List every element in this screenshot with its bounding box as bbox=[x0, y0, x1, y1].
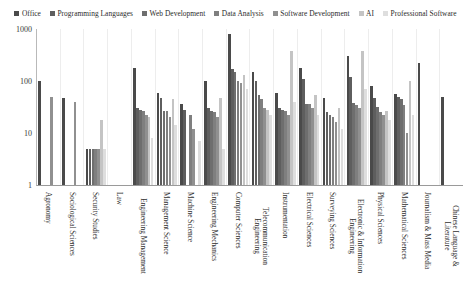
bar-group bbox=[37, 29, 61, 185]
x-axis-tick-label: Engineering Mechanics bbox=[210, 192, 218, 261]
x-axis-tick-label: Engineering Management bbox=[139, 192, 147, 280]
bar-group bbox=[61, 29, 85, 185]
x-axis-tick-label: Telecommunication Engineering bbox=[253, 192, 269, 280]
x-axis-tick: Telecommunication Engineering bbox=[249, 190, 273, 283]
bar bbox=[441, 97, 444, 185]
legend-item-label: Data Analysis bbox=[222, 9, 264, 18]
bar-group bbox=[298, 29, 322, 185]
legend-swatch-icon bbox=[383, 11, 388, 16]
legend-item[interactable]: Data Analysis bbox=[214, 9, 263, 18]
x-axis-tick: Mathematical Sciences bbox=[392, 190, 416, 283]
y-axis-tick-label: 100 bbox=[20, 77, 32, 86]
bar-group bbox=[179, 29, 203, 185]
bar-chart: OfficeProgramming LanguagesWeb Developme… bbox=[0, 0, 471, 283]
y-axis: 1000100101 bbox=[0, 22, 36, 190]
x-axis-tick: Electrical Sciences bbox=[297, 190, 321, 283]
x-axis-tick-label: Sociological Sciences bbox=[68, 192, 76, 256]
plot-wrapper: 1000100101 bbox=[0, 22, 471, 190]
legend-swatch-icon bbox=[273, 11, 278, 16]
bar-group bbox=[369, 29, 393, 185]
bar bbox=[38, 81, 41, 185]
legend-swatch-icon bbox=[214, 11, 219, 16]
x-axis-tick-label: Computer Sciences bbox=[234, 192, 242, 249]
bar-group bbox=[322, 29, 346, 185]
legend-item-label: AI bbox=[366, 9, 374, 18]
bar bbox=[412, 115, 415, 185]
bar-group bbox=[108, 29, 132, 185]
legend-swatch-icon bbox=[50, 11, 55, 16]
bar bbox=[192, 129, 195, 185]
bar bbox=[293, 102, 296, 185]
x-axis-tick-label: Surveying Sciences bbox=[328, 192, 336, 249]
y-axis-tick-label: 10 bbox=[24, 129, 32, 138]
bar bbox=[222, 149, 225, 185]
bar-group bbox=[250, 29, 274, 185]
x-axis-tick: Management Science bbox=[155, 190, 179, 283]
bar-group bbox=[132, 29, 156, 185]
x-axis-tick: Engineering Mechanics bbox=[202, 190, 226, 283]
x-axis-tick-label: Machine Science bbox=[186, 192, 194, 242]
x-axis-tick-label: Chinese Language & Literature bbox=[443, 192, 459, 280]
x-axis-tick: Law bbox=[107, 190, 131, 283]
x-axis-tick: Security Studies bbox=[83, 190, 107, 283]
bar bbox=[341, 129, 344, 185]
bar-group bbox=[393, 29, 417, 185]
x-axis-tick: Machine Science bbox=[178, 190, 202, 283]
bar-group bbox=[274, 29, 298, 185]
bar bbox=[269, 115, 272, 185]
plot-area bbox=[36, 29, 463, 186]
x-axis-tick: Computer Sciences bbox=[226, 190, 250, 283]
x-axis-tick: Instrumentation bbox=[273, 190, 297, 283]
bar bbox=[103, 149, 106, 185]
x-axis: AgronomySociological SciencesSecurity St… bbox=[36, 190, 463, 283]
x-axis-tick: Chinese Language & Literature bbox=[439, 190, 463, 283]
y-axis-tick-label: 1000 bbox=[16, 25, 32, 34]
x-axis-tick-label: Agronomy bbox=[44, 192, 52, 224]
x-axis-tick: Surveying Sciences bbox=[321, 190, 345, 283]
bar-group bbox=[440, 29, 463, 185]
bar-group bbox=[84, 29, 108, 185]
bar-group bbox=[417, 29, 441, 185]
bar bbox=[62, 98, 65, 185]
bar bbox=[74, 102, 77, 185]
legend-item[interactable]: Programming Languages bbox=[50, 9, 133, 18]
legend-item-label: Programming Languages bbox=[57, 9, 133, 18]
bar bbox=[198, 141, 201, 185]
bar-groups bbox=[37, 29, 463, 185]
legend-swatch-icon bbox=[359, 11, 364, 16]
x-axis-tick-label: Journalism & Mass Media bbox=[423, 192, 431, 269]
x-axis-tick-label: Electronic & Information Engineering bbox=[348, 192, 364, 280]
legend-swatch-icon bbox=[14, 11, 19, 16]
legend-item[interactable]: Office bbox=[14, 9, 41, 18]
bar bbox=[151, 138, 154, 185]
legend-swatch-icon bbox=[142, 11, 147, 16]
y-axis-tick-label: 1 bbox=[28, 181, 32, 190]
x-axis-tick: Agronomy bbox=[36, 190, 60, 283]
bar-group bbox=[156, 29, 180, 185]
bar bbox=[317, 115, 320, 185]
legend-item[interactable]: Professional Software bbox=[383, 9, 457, 18]
bar bbox=[388, 120, 391, 185]
bar bbox=[246, 89, 249, 185]
x-axis-tick: Electronic & Information Engineering bbox=[344, 190, 368, 283]
x-axis-tick-label: Security Studies bbox=[91, 192, 99, 240]
x-axis-tick-label: Electrical Sciences bbox=[305, 192, 313, 247]
x-axis-tick-label: Law bbox=[115, 192, 123, 205]
legend-item[interactable]: Software Development bbox=[273, 9, 350, 18]
legend-item-label: Office bbox=[22, 9, 41, 18]
x-axis-tick-label: Instrumentation bbox=[281, 192, 289, 238]
x-axis-tick-label: Management Science bbox=[162, 192, 170, 255]
x-axis-tick-label: Mathematical Sciences bbox=[400, 192, 408, 259]
bar-group bbox=[203, 29, 227, 185]
legend-item-label: Web Development bbox=[150, 9, 206, 18]
x-axis-tick: Journalism & Mass Media bbox=[416, 190, 440, 283]
bar-group bbox=[345, 29, 369, 185]
x-axis-tick: Physical Sciences bbox=[368, 190, 392, 283]
bar-group bbox=[227, 29, 251, 185]
bar bbox=[174, 125, 177, 185]
chart-legend: OfficeProgramming LanguagesWeb Developme… bbox=[0, 6, 471, 20]
bar bbox=[50, 97, 53, 185]
bar bbox=[418, 63, 421, 185]
legend-item[interactable]: Web Development bbox=[142, 9, 205, 18]
legend-item[interactable]: AI bbox=[359, 9, 374, 18]
